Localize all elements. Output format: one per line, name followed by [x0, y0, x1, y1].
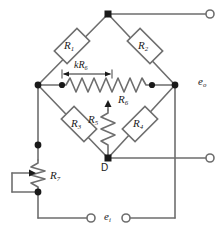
label-node-d: D	[101, 162, 108, 173]
label-r2: R2	[138, 40, 148, 51]
label-r1: R1	[64, 40, 74, 51]
terminal-bottom-left	[87, 214, 95, 222]
terminal-top-right	[206, 10, 214, 18]
node-top-apex	[105, 11, 112, 18]
label-r3: R3	[71, 118, 81, 129]
label-output-voltage: eo	[198, 76, 206, 87]
r6-zigzag	[62, 78, 152, 92]
node-right	[172, 82, 179, 89]
node-r6-left-tap	[59, 82, 65, 88]
figure-canvas: R1 R2 R3 R4 R5 R6 R7 kR6 D eo ei	[0, 0, 224, 232]
label-r5: R5	[88, 114, 98, 125]
node-r7-bottom	[35, 189, 42, 196]
r5-wiper-arrowhead	[105, 100, 112, 107]
label-r7: R7	[50, 170, 60, 181]
label-r6: R6	[118, 94, 128, 105]
node-r7-top	[35, 142, 42, 149]
node-r6-right-tap	[149, 82, 155, 88]
label-input-voltage: ei	[104, 211, 111, 222]
circuit-schematic	[0, 0, 224, 232]
terminal-mid-right	[206, 154, 214, 162]
dim-arrowhead-right	[105, 72, 111, 77]
node-left	[35, 82, 42, 89]
terminal-bottom-right	[122, 214, 130, 222]
node-bottom-d	[105, 155, 112, 162]
label-r4: R4	[133, 118, 143, 129]
label-k-r6: kR6	[74, 60, 88, 70]
r5-zigzag	[101, 110, 115, 158]
dim-arrowhead-left	[63, 72, 69, 77]
